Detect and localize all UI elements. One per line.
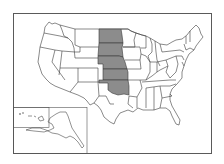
state-kansas[interactable] <box>103 69 128 80</box>
us-map <box>0 0 224 164</box>
inset-box <box>14 108 88 154</box>
state-north-dakota[interactable] <box>99 29 123 43</box>
alaska-outline <box>26 112 84 148</box>
hawaii-islands <box>19 113 44 122</box>
state-south-dakota[interactable] <box>98 43 123 57</box>
